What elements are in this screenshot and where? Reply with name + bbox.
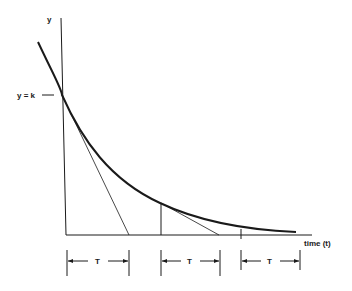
tangent-line-2 bbox=[161, 203, 219, 235]
tangent-line-1 bbox=[62, 95, 129, 235]
exponential-decay-diagram: y time (t) y = k T T T bbox=[0, 0, 352, 291]
interval-label-1: T bbox=[95, 257, 100, 266]
interval-bracket-1: T bbox=[67, 250, 129, 276]
interval-label-2: T bbox=[187, 257, 192, 266]
x-axis-label: time (t) bbox=[304, 239, 331, 248]
interval-bracket-2: T bbox=[161, 250, 220, 276]
intercept-label: y = k bbox=[17, 91, 36, 100]
y-axis bbox=[61, 18, 66, 235]
decay-curve bbox=[38, 42, 296, 232]
interval-label-3: T bbox=[267, 257, 272, 266]
y-axis-label: y bbox=[47, 15, 52, 24]
interval-bracket-3: T bbox=[241, 250, 300, 270]
